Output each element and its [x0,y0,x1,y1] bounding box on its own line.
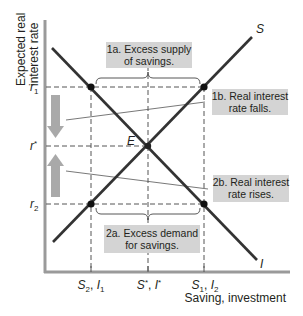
loanable-funds-diagram: Expected real interest rate Saving, inve… [0,0,303,316]
annotation-1b-line2: rate falls. [229,102,272,114]
annotation-1b-line1: 1b. Real interest [212,90,289,102]
point-r1-left [87,83,94,90]
down-arrow-icon [47,95,64,138]
annotation-2a-line2: for savings. [125,239,179,251]
x-tick-sstar-istar: S*, I* [137,278,161,292]
y-axis-label: Expected real [14,13,28,86]
up-arrow-icon [47,154,64,197]
saving-curve-label: S [256,22,264,36]
y-axis-label-line2: interest rate [27,22,41,86]
equilibrium-label: E [127,134,136,148]
y-tick-rstar: r* [30,139,37,153]
x-tick-s1-i2: S1, I2 [192,278,219,294]
annotation-2b-line1: 2b. Real interest [213,176,290,188]
y-tick-r2: r2 [30,197,39,213]
annotation-2b-line2: rate rises. [228,188,274,200]
equilibrium-point [145,143,151,149]
point-r1-right [200,83,207,90]
annotation-2a-line1: 2a. Excess demand [106,227,198,239]
investment-curve-label: I [260,257,264,271]
annotation-1a-line1: 1a. Excess supply [107,43,192,55]
pointer-1b [66,102,205,120]
point-r2-left [87,200,94,207]
point-r2-right [200,200,207,207]
annotation-1a-line2: of savings. [124,55,174,67]
x-tick-s2-i1: S2, I1 [78,278,105,294]
